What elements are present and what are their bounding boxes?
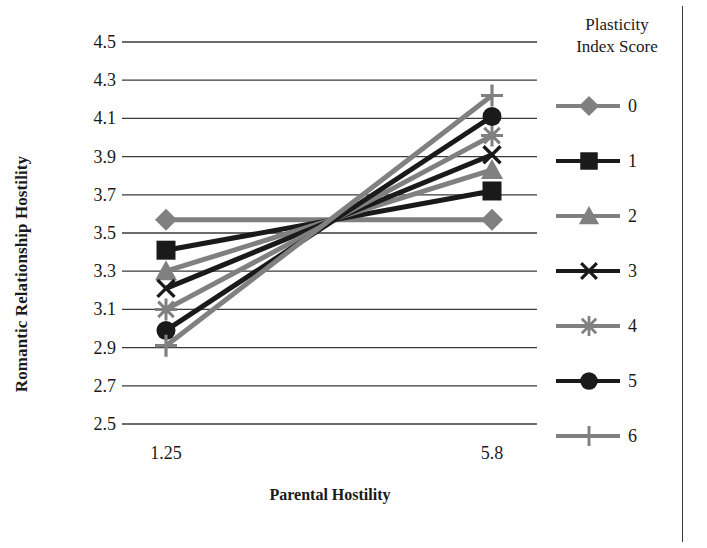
legend-key-marker (574, 91, 604, 121)
legend-label: 5 (626, 372, 637, 390)
legend-item-4[interactable]: 4 (552, 314, 682, 338)
legend-key (552, 150, 626, 172)
legend-item-1[interactable]: 1 (552, 149, 682, 173)
chart-figure: Romantic Relationship Hostility 4.54.34.… (0, 0, 707, 548)
marker-triangle (579, 206, 599, 224)
legend-item-3[interactable]: 3 (552, 259, 682, 283)
legend-key (552, 315, 626, 337)
marker-circle (580, 372, 597, 389)
marker-diamond (481, 209, 503, 231)
marker-square (580, 152, 597, 169)
legend-label: 2 (626, 207, 637, 225)
x-tick-label: 5.8 (481, 443, 504, 464)
legend: Plasticity Index Score 0123456 (552, 14, 682, 64)
figure-right-border (682, 6, 683, 542)
legend-label: 3 (626, 262, 637, 280)
marker-asterisk (481, 125, 503, 147)
legend-label: 4 (626, 317, 637, 335)
marker-x (581, 263, 597, 279)
legend-key-marker (574, 256, 604, 286)
legend-title: Plasticity Index Score (552, 14, 682, 58)
series-lines (166, 95, 492, 345)
marker-circle (483, 107, 502, 126)
legend-label: 6 (626, 427, 637, 445)
legend-key-marker (574, 201, 604, 231)
legend-item-5[interactable]: 5 (552, 369, 682, 393)
legend-key (552, 425, 626, 447)
legend-key (552, 205, 626, 227)
legend-item-6[interactable]: 6 (552, 424, 682, 448)
legend-item-2[interactable]: 2 (552, 204, 682, 228)
marker-diamond (579, 96, 599, 116)
legend-key (552, 370, 626, 392)
marker-plus (579, 426, 599, 446)
legend-key-marker (574, 146, 604, 176)
x-axis-title: Parental Hostility (122, 486, 538, 504)
legend-key (552, 95, 626, 117)
marker-asterisk (155, 298, 177, 320)
marker-diamond (155, 209, 177, 231)
legend-label: 1 (626, 152, 637, 170)
legend-key (552, 260, 626, 282)
marker-square (157, 241, 176, 260)
marker-asterisk (579, 316, 599, 336)
legend-label: 0 (626, 97, 637, 115)
legend-key-marker (574, 421, 604, 451)
gridlines (122, 42, 537, 424)
legend-key-marker (574, 366, 604, 396)
x-tick-label: 1.25 (150, 443, 182, 464)
legend-item-0[interactable]: 0 (552, 94, 682, 118)
legend-key-marker (574, 311, 604, 341)
marker-square (483, 181, 502, 200)
